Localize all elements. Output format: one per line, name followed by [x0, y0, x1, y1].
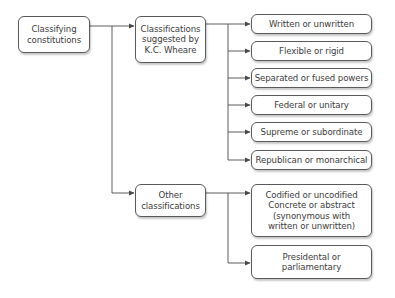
node-supreme-or-subordinate: Supreme or subordinate — [251, 122, 372, 142]
node-other-classifications: Other classifications — [135, 184, 206, 217]
node-presidential-or-parliamentary: Presidental or parliamentary — [251, 245, 372, 279]
node-flexible-or-rigid: Flexible or rigid — [251, 41, 372, 61]
node-codified-or-uncodified: Codified or uncodified Concrete or abstr… — [251, 184, 372, 237]
node-federal-or-unitary: Federal or unitary — [251, 95, 372, 115]
node-classifying-constitutions: Classifying constitutions — [18, 16, 90, 53]
node-republican-or-monarchical: Republican or monarchical — [251, 150, 372, 170]
node-separated-or-fused-powers: Separated or fused powers — [251, 68, 372, 88]
node-wheare-classifications: Classifications suggested by K.C. Wheare — [135, 16, 206, 63]
node-written-or-unwritten: Written or unwritten — [251, 14, 372, 34]
